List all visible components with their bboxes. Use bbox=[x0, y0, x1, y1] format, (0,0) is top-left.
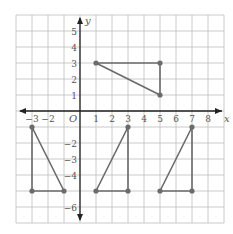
x-tick-label: 6 bbox=[173, 114, 179, 124]
y-tick-label: −2 bbox=[64, 139, 77, 149]
y-tick-label: −4 bbox=[64, 171, 78, 181]
vertex-point bbox=[189, 188, 194, 193]
origin-label: O bbox=[69, 113, 77, 124]
vertex-point bbox=[93, 60, 98, 65]
y-tick-label: 4 bbox=[71, 43, 77, 53]
x-axis-arrow-right-icon bbox=[215, 108, 222, 114]
y-tick-label: 3 bbox=[71, 59, 77, 69]
y-axis-label: y bbox=[84, 15, 91, 26]
x-tick-label: 5 bbox=[157, 114, 163, 124]
y-tick-label: 2 bbox=[71, 75, 77, 85]
vertex-point bbox=[93, 188, 98, 193]
coordinate-plane: −3−21234567854321−2−3−4−6 x y O bbox=[0, 0, 233, 234]
x-tick-label: 1 bbox=[93, 114, 99, 124]
vertex-point bbox=[157, 60, 162, 65]
vertex-point bbox=[29, 124, 34, 129]
vertex-point bbox=[157, 92, 162, 97]
vertex-point bbox=[157, 188, 162, 193]
y-tick-label: −6 bbox=[64, 203, 78, 213]
vertex-point bbox=[189, 124, 194, 129]
y-axis-arrow-down-icon bbox=[77, 214, 83, 221]
x-tick-label: −2 bbox=[41, 114, 54, 124]
x-tick-label: 3 bbox=[125, 114, 131, 124]
vertex-point bbox=[61, 188, 66, 193]
vertex-point bbox=[125, 188, 130, 193]
vertex-point bbox=[125, 124, 130, 129]
x-tick-label: 7 bbox=[189, 114, 195, 124]
tick-labels: −3−21234567854321−2−3−4−6 bbox=[25, 27, 211, 213]
x-tick-label: −3 bbox=[25, 114, 39, 124]
x-tick-label: 2 bbox=[109, 114, 115, 124]
y-tick-label: 1 bbox=[71, 91, 77, 101]
x-tick-label: 4 bbox=[141, 114, 147, 124]
x-tick-label: 8 bbox=[205, 114, 211, 124]
x-axis-label: x bbox=[224, 113, 230, 124]
vertex-point bbox=[29, 188, 34, 193]
y-axis-arrow-up-icon bbox=[77, 17, 83, 24]
y-tick-label: −3 bbox=[64, 155, 78, 165]
y-tick-label: 5 bbox=[71, 27, 77, 37]
